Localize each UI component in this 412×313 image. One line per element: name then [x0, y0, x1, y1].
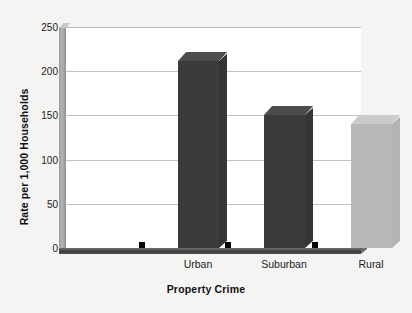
y-axis-tick-label: 200 — [22, 66, 58, 77]
x-axis-title: Property Crime — [0, 283, 412, 295]
y-axis-tick-label: 0 — [22, 243, 58, 254]
bar-side-face — [219, 54, 227, 248]
bar-shadow — [139, 242, 145, 248]
bar-suburban — [264, 115, 305, 248]
bar-rural — [351, 124, 392, 248]
bar-top-face — [264, 106, 313, 115]
gridline — [66, 27, 361, 28]
x-axis-tick-label: Rural — [326, 258, 412, 270]
bar-front-face — [264, 115, 305, 248]
y-axis-tick-label: 250 — [22, 22, 58, 33]
plot-area — [66, 27, 361, 248]
bar-urban — [178, 61, 219, 248]
bar-front-face — [351, 124, 392, 248]
plot-floor — [59, 248, 361, 254]
bar-shadow — [225, 242, 231, 248]
bar-side-face — [392, 117, 400, 248]
y-axis-tick-label: 150 — [22, 110, 58, 121]
x-axis-tick-label: Urban — [153, 258, 243, 270]
plot-left-wall — [59, 27, 66, 248]
bar-front-face — [178, 61, 219, 248]
bar-side-face — [305, 108, 313, 248]
x-axis-tick-label: Suburban — [239, 258, 329, 270]
bar-chart: Rate per 1,000 Households 05010015020025… — [0, 0, 412, 313]
y-axis-tick-label: 50 — [22, 198, 58, 209]
bar-top-face — [351, 115, 400, 124]
bar-top-face — [178, 52, 227, 61]
y-axis-tick-label: 100 — [22, 154, 58, 165]
bar-shadow — [312, 242, 318, 248]
